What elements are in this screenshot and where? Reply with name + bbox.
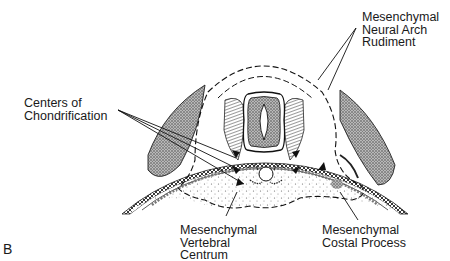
panel-letter: B <box>3 241 12 257</box>
label-line: Costal Process <box>322 237 406 250</box>
label-centers-of-chondrification: Centers of Chondrification <box>24 97 107 122</box>
label-line: Rudiment <box>362 36 439 49</box>
label-vertebral-centrum: Mesenchymal Vertebral Centrum <box>180 224 257 261</box>
label-costal-process: Mesenchymal Costal Process <box>322 224 406 249</box>
notochord <box>259 167 273 181</box>
label-line: Mesenchymal <box>362 11 439 24</box>
label-line: Chondrification <box>24 110 107 123</box>
label-neural-arch-rudiment: Mesenchymal Neural Arch Rudiment <box>362 11 439 49</box>
right-epaxial-muscle <box>284 98 304 160</box>
label-line: Centrum <box>180 249 257 261</box>
label-line: Mesenchymal <box>180 224 257 237</box>
label-line: Centers of <box>24 97 107 110</box>
right-muscle-mass <box>340 90 395 185</box>
label-line: Mesenchymal <box>322 224 406 237</box>
costal-process-dots <box>331 179 343 189</box>
